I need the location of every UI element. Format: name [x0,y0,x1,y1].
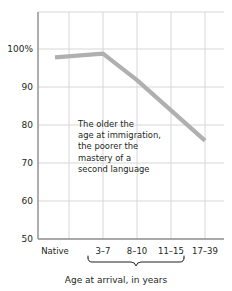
annotation-line-5: second language [78,164,174,175]
annotation-line-1: The older the [78,119,174,130]
annotation-line-2: age at immigration, [78,130,174,141]
annotation-line-4: mastery of a [78,153,174,164]
annotation-line-3: the poorer the [78,141,174,152]
x-tick-3-7: 3–7 [95,247,110,256]
chart-annotation: The older the age at immigration, the po… [78,119,174,175]
x-axis-title: Age at arrival, in years [65,275,167,285]
x-tick-17-39: 17–39 [192,247,218,256]
x-tick-native: Native [41,247,69,256]
x-tick-8-10: 8–10 [127,247,147,256]
x-tick-11-15: 11–15 [158,247,184,256]
